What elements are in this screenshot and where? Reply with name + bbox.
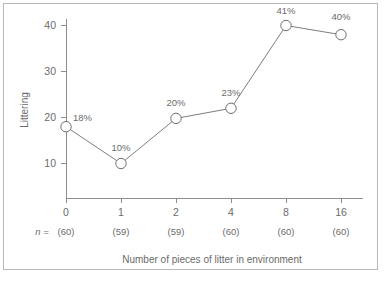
sample-size-4: (60) [223,226,240,237]
data-label-1: 10% [111,142,131,153]
line-chart: 40 30 20 10 Littering 0 1 2 4 8 16 n = (… [0,0,386,283]
x-tick-label-0: 0 [63,206,69,218]
y-axis-title: Littering [19,92,30,128]
data-point-2[interactable] [171,113,181,123]
sample-size-8: (60) [278,226,295,237]
data-point-0[interactable] [61,122,71,132]
sample-size-2: (59) [168,226,185,237]
data-label-4: 23% [221,87,241,98]
sample-size-16: (60) [333,226,350,237]
figure-container: 40 30 20 10 Littering 0 1 2 4 8 16 n = (… [0,0,386,283]
data-label-0: 18% [73,112,93,123]
y-tick-label-30: 30 [44,65,56,77]
x-tick-label-4: 4 [228,206,234,218]
x-tick-label-2: 2 [173,206,179,218]
sample-size-0: (60) [58,226,75,237]
data-label-8: 41% [276,5,296,16]
sample-size-1: (59) [113,226,130,237]
x-tick-label-1: 1 [118,206,124,218]
data-point-1[interactable] [116,158,126,168]
sample-size-prefix: n = [35,226,49,237]
series-line [66,26,341,164]
data-point-4[interactable] [226,103,236,113]
x-tick-label-16: 16 [335,206,347,218]
y-axis-ticks [61,26,66,164]
data-label-2: 20% [166,97,186,108]
x-axis-title: Number of pieces of litter in environmen… [122,254,302,265]
data-label-16: 40% [331,11,351,22]
y-tick-label-40: 40 [44,19,56,31]
y-tick-label-10: 10 [44,157,56,169]
data-point-16[interactable] [336,30,346,40]
data-point-8[interactable] [281,20,291,30]
x-tick-label-8: 8 [283,206,289,218]
y-tick-label-20: 20 [44,111,56,123]
